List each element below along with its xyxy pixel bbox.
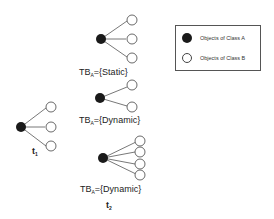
label-rest: ={Dynamic}	[94, 115, 140, 125]
tree-label-static: TBA={Static}	[79, 67, 128, 78]
class-b-node	[46, 122, 56, 132]
time-label-sub: 2	[109, 205, 112, 211]
class-b-node	[135, 159, 145, 169]
label-base: TB	[79, 115, 91, 125]
legend-item-class-b: Objects of Class B	[176, 53, 245, 63]
class-b-node	[127, 102, 137, 112]
tree-label-dynamic-2: TBA={Dynamic}	[80, 184, 141, 195]
hollow-circle-icon	[182, 53, 192, 63]
class-b-node	[127, 15, 137, 25]
class-b-node	[135, 170, 145, 180]
class-b-node	[127, 80, 137, 90]
class-b-node	[46, 141, 56, 151]
class-a-node	[95, 93, 105, 103]
class-a-node	[96, 34, 106, 44]
label-rest: ={Static}	[94, 67, 128, 77]
class-a-node	[16, 122, 26, 132]
time-label-sub: 1	[35, 151, 38, 157]
class-b-node	[46, 102, 56, 112]
time-label-t2: t2	[106, 200, 112, 211]
label-base: TB	[80, 184, 92, 194]
class-b-node	[135, 147, 145, 157]
label-rest: ={Dynamic}	[95, 184, 141, 194]
class-b-node	[135, 136, 145, 146]
legend-item-class-a: Objects of Class A	[176, 33, 245, 43]
legend-label: Objects of Class B	[200, 55, 245, 61]
time-label-t1: t1	[32, 146, 38, 157]
legend-label: Objects of Class A	[200, 35, 245, 41]
class-b-node	[127, 53, 137, 63]
tree-label-dynamic-1: TBA={Dynamic}	[79, 115, 140, 126]
legend: Objects of Class A Objects of Class B	[175, 25, 261, 71]
class-a-node	[98, 153, 108, 163]
class-b-node	[127, 34, 137, 44]
filled-circle-icon	[182, 33, 192, 43]
label-base: TB	[79, 67, 91, 77]
